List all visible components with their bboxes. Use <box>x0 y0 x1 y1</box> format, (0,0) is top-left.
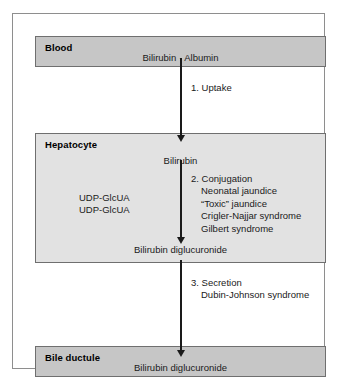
cofactor-labels: UDP-GlcUA UDP-GlcUA <box>79 192 130 217</box>
diagram-frame: Blood Bilirubin · Albumin Hepatocyte Bil… <box>12 13 325 369</box>
arrow-head <box>177 237 185 244</box>
arrow-shaft <box>180 58 182 135</box>
arrow-shaft <box>180 260 182 350</box>
step-secretion-labels: 3. Secretion Dubin-Johnson syndrome <box>191 277 309 302</box>
hepatocyte-product-label: Bilirubin diglucuronide <box>36 244 325 255</box>
secretion-arrow-icon <box>175 260 186 357</box>
disorder-label: Dubin-Johnson syndrome <box>191 289 309 301</box>
disorder-label: “Toxic” jaundice <box>191 198 301 210</box>
step-uptake-labels: 1. Uptake <box>191 82 232 94</box>
disorder-label: Gilbert syndrome <box>191 223 301 235</box>
uptake-arrow-icon <box>175 58 186 142</box>
bilirubin-metabolism-diagram: Blood Bilirubin · Albumin Hepatocyte Bil… <box>0 0 339 384</box>
compartment-hepatocyte-title: Hepatocyte <box>45 139 97 150</box>
step-secretion-heading: 3. Secretion <box>191 277 309 289</box>
step-uptake-heading: 1. Uptake <box>191 82 232 94</box>
disorder-label: Crigler-Najjar syndrome <box>191 210 301 222</box>
cofactor-label: UDP-GlcUA <box>79 204 130 216</box>
step-conjugation-heading: 2. Conjugation <box>191 173 301 185</box>
conjugation-arrow-icon <box>175 160 186 244</box>
arrow-shaft <box>180 160 182 237</box>
cofactor-label: UDP-GlcUA <box>79 192 130 204</box>
step-conjugation-labels: 2. Conjugation Neonatal jaundice “Toxic”… <box>191 173 301 235</box>
arrow-head <box>177 350 185 357</box>
disorder-label: Neonatal jaundice <box>191 185 301 197</box>
bile-ductule-species-label: Bilirubin diglucuronide <box>36 362 325 373</box>
arrow-head <box>177 135 185 142</box>
